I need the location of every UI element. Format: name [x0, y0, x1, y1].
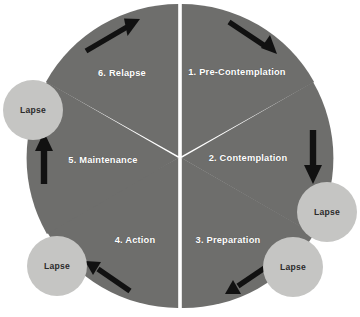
lapse-node-label: Lapse: [280, 262, 306, 272]
lapse-node-label: Lapse: [20, 105, 46, 115]
diagram-canvas: 1. Pre-Contemplation 2. Contemplation 3.…: [0, 0, 360, 317]
lapse-node-label: Lapse: [314, 207, 340, 217]
segment-label-action: 4. Action: [115, 235, 156, 245]
lapse-node-label: Lapse: [44, 261, 70, 271]
segment-label-preparation: 3. Preparation: [196, 235, 261, 245]
segment-label-relapse: 6. Relapse: [98, 68, 146, 78]
lapse-node-action[interactable]: Lapse: [27, 236, 87, 296]
lapse-node-maintenance[interactable]: Lapse: [3, 80, 63, 140]
lapse-node-contemplation[interactable]: Lapse: [297, 182, 357, 242]
segment-label-pre-contemplation: 1. Pre-Contemplation: [188, 67, 286, 77]
segment-label-maintenance: 5. Maintenance: [68, 155, 137, 165]
segment-label-contemplation: 2. Contemplation: [209, 153, 288, 163]
lapse-node-preparation[interactable]: Lapse: [263, 237, 323, 297]
